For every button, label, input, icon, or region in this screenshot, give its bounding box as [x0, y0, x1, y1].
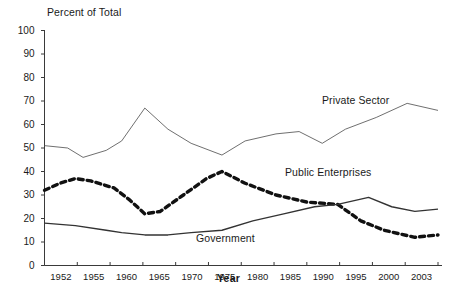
y-axis-tick-label: 90: [9, 49, 35, 59]
series-lines: [45, 103, 439, 237]
series-label-private-sector: Private Sector: [322, 94, 389, 106]
series-label-government: Government: [196, 232, 255, 244]
series-label-public-enterprises: Public Enterprises: [285, 166, 371, 178]
y-axis-tick-label: 0: [9, 261, 35, 271]
y-axis-tick-label: 30: [9, 190, 35, 200]
y-axis-tick-label: 50: [9, 143, 35, 153]
series-line-private-sector: [45, 103, 439, 157]
y-axis-tick-label: 10: [9, 237, 35, 247]
axes: [41, 30, 442, 266]
y-axis-tick-label: 60: [9, 120, 35, 130]
y-axis-tick-label: 20: [9, 214, 35, 224]
y-axis-tick-label: 70: [9, 96, 35, 106]
plot-area: [0, 0, 457, 293]
y-axis-tick-label: 100: [9, 26, 35, 36]
y-axis-tick-label: 80: [9, 73, 35, 83]
y-axis-tick-label: 40: [9, 167, 35, 177]
series-line-public-enterprises: [45, 172, 439, 238]
line-chart: Percent of Total 0102030405060708090100 …: [0, 0, 457, 293]
x-axis-title: Year: [0, 272, 457, 284]
